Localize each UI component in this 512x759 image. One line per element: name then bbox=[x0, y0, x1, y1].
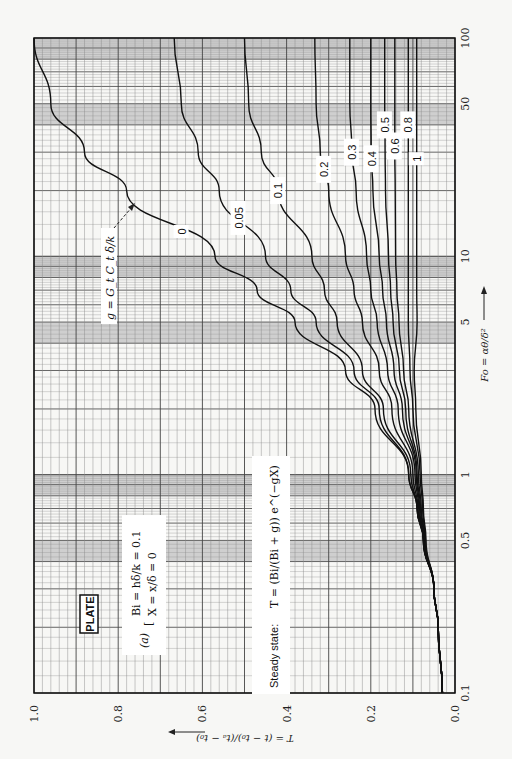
y-axis-title: T = (t − t₀)/(tₐ − t₀) bbox=[196, 733, 294, 744]
x-axis-title: Fo = αθ/δ² bbox=[479, 328, 490, 382]
y-tick-group: 0.8 bbox=[112, 705, 125, 723]
curve-label-0.8: 0.8 bbox=[402, 117, 414, 132]
curve-label-group: 0.4 bbox=[364, 145, 379, 172]
curve-label-0.1: 0.1 bbox=[272, 183, 284, 198]
y-tick-label: 1.0 bbox=[28, 705, 41, 723]
y-tick-label: 0.8 bbox=[112, 705, 125, 723]
x-tick-group: 1 bbox=[459, 471, 472, 478]
steady-state-formula: T = (Bi/(Bi + g)) e^(−gX) bbox=[268, 465, 281, 608]
curve-label-group: 0.8 bbox=[400, 111, 415, 138]
curve-label-0.4: 0.4 bbox=[366, 151, 378, 166]
curve-label-1: 1 bbox=[411, 156, 423, 162]
x-tick-label: 5 bbox=[459, 319, 472, 326]
x-axis-title-group: Fo = αθ/δ² bbox=[479, 328, 490, 382]
condition-x: X = x/δ = 0 bbox=[146, 552, 159, 616]
x-tick-label: 100 bbox=[459, 28, 472, 49]
x-tick-label: 50 bbox=[459, 97, 472, 111]
y-tick-group: 0.2 bbox=[365, 705, 378, 723]
y-tick-group: 0.6 bbox=[196, 705, 209, 723]
x-tick-group: 5 bbox=[459, 319, 472, 326]
case-label: (a) bbox=[138, 633, 151, 648]
steady-state-label: Steady state: bbox=[268, 624, 280, 688]
y-tick-label: 0.4 bbox=[281, 705, 294, 723]
y-tick-label: 0.2 bbox=[365, 705, 378, 723]
chart: 00.050.10.20.30.40.50.60.81 0.10.5151050… bbox=[0, 0, 512, 759]
condition-bi: Bi = hδ/k = 0.1 bbox=[130, 530, 143, 616]
x-axis-arrow bbox=[481, 286, 487, 320]
curve-label-0.2: 0.2 bbox=[318, 162, 330, 177]
x-tick-group: 0.1 bbox=[459, 684, 472, 702]
y-tick-group: 1.0 bbox=[28, 705, 41, 723]
y-tick-group: 0.0 bbox=[449, 705, 462, 723]
curve-label-group: 0.05 bbox=[231, 201, 246, 235]
x-tick-label: 1 bbox=[459, 471, 472, 478]
curve-label-0: 0 bbox=[176, 228, 188, 234]
x-tick-group: 0.5 bbox=[459, 532, 472, 550]
plate-label-group: PLATE bbox=[80, 595, 98, 633]
x-tick-group: 10 bbox=[459, 249, 472, 263]
conditions-group: (a) [ Bi = hδ/k = 0.1 X = x/δ = 0 bbox=[122, 515, 166, 655]
curve-label-0.6: 0.6 bbox=[389, 138, 401, 153]
steady-state-group: Steady state: T = (Bi/(Bi + g)) e^(−gX) bbox=[252, 456, 290, 694]
x-tick-group: 50 bbox=[459, 97, 472, 111]
curve-label-group: 0.3 bbox=[344, 139, 359, 166]
curve-label-group: 0.6 bbox=[387, 133, 402, 160]
x-tick-label: 10 bbox=[459, 249, 472, 263]
curve-label-group: 1 bbox=[409, 152, 424, 165]
plate-label: PLATE bbox=[84, 596, 96, 631]
curve-label-group: 0.2 bbox=[316, 156, 331, 183]
y-tick-label: 0.6 bbox=[196, 705, 209, 723]
y-tick-label: 0.0 bbox=[449, 705, 462, 723]
bracket: [ bbox=[142, 622, 155, 626]
curve-label-group: 0 bbox=[174, 225, 189, 238]
curve-label-0.3: 0.3 bbox=[346, 145, 358, 160]
curve-label-0.05: 0.05 bbox=[233, 207, 245, 228]
x-tick-group: 100 bbox=[459, 28, 472, 49]
parameter-label-group: g = G_t C_t δ/k bbox=[101, 228, 117, 324]
curve-label-0.5: 0.5 bbox=[379, 117, 391, 132]
parameter-label: g = G_t C_t δ/k bbox=[104, 235, 117, 320]
curve-label-group: 0.1 bbox=[270, 177, 285, 204]
x-tick-label: 0.1 bbox=[459, 684, 472, 702]
y-axis-title-group: T = (t − t₀)/(tₐ − t₀) bbox=[196, 733, 294, 744]
y-tick-group: 0.4 bbox=[281, 705, 294, 723]
x-tick-label: 0.5 bbox=[459, 532, 472, 550]
